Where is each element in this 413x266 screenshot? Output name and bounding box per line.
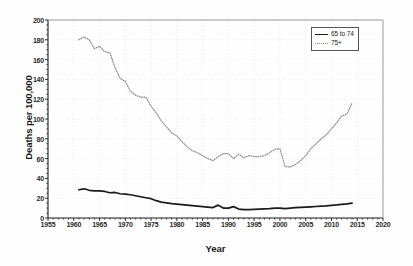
y-tick-label: 60 (20, 155, 44, 162)
legend-label-75-plus: 75+ (331, 39, 342, 48)
x-axis-title: Year (48, 243, 383, 254)
data-series-layer (79, 37, 352, 210)
dotted-line-swatch (315, 40, 328, 47)
chart-figure: Deaths per 100,000 Year 0204060801001201… (0, 0, 413, 266)
y-tick-label: 20 (20, 195, 44, 202)
legend-item-75-plus: 75+ (315, 39, 354, 48)
x-tick-label: 2020 (366, 221, 400, 228)
y-tick-label: 200 (20, 17, 44, 24)
y-tick-label: 180 (20, 36, 44, 43)
series-line-65-to-74 (79, 189, 352, 210)
y-tick-label: 160 (20, 56, 44, 63)
y-tick-label: 140 (20, 76, 44, 83)
legend-label-65-to-74: 65 to 74 (331, 30, 354, 39)
y-tick-label: 120 (20, 96, 44, 103)
y-tick-label: 40 (20, 175, 44, 182)
series-line-75 (79, 37, 352, 167)
y-tick-label: 100 (20, 116, 44, 123)
chart-legend: 65 to 74 75+ (311, 27, 359, 51)
y-tick-label: 80 (20, 135, 44, 142)
solid-line-swatch (315, 31, 328, 38)
x-axis-tick-labels: 1955196019651970197519801985199019952000… (0, 221, 413, 235)
legend-item-65-to-74: 65 to 74 (315, 30, 354, 39)
